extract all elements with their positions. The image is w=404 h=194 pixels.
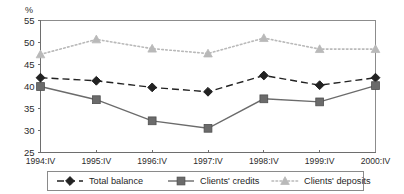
data-point-marker [372,82,380,90]
y-axis-tick-label: 55 [24,15,35,26]
x-axis-tick-label: 1995:IV [82,156,112,166]
data-point-marker [316,98,324,106]
chart-legend: Total balanceClients' creditsClients' de… [48,172,372,191]
y-axis-tick-label: 45 [24,59,35,70]
data-point-marker [37,83,45,91]
legend-label: Clients' credits [200,176,260,186]
data-series [36,71,380,96]
data-point-marker [260,34,269,42]
x-axis-tick-label: 1997:IV [193,156,223,166]
data-point-marker [260,95,268,103]
data-point-marker [315,81,324,90]
x-axis-ticks: 1994:IV1995:IV1996:IV1997:IV1998:IV1999:… [26,150,391,166]
legend-marker-icon [177,177,185,185]
data-point-marker [92,35,101,43]
legend-label: Total balance [89,176,143,186]
legend-item[interactable]: Clients' credits [168,176,260,186]
y-axis-tick-label: 35 [24,103,35,114]
chart-container: 25303540455055 1994:IV1995:IV1996:IV1997… [0,0,404,194]
data-point-marker [204,124,212,132]
legend-item[interactable]: Total balance [57,176,143,186]
data-series-group [36,34,380,132]
y-axis-tick-label: 30 [24,125,35,136]
x-axis-tick-label: 1998:IV [249,156,279,166]
data-point-marker [148,83,157,92]
data-point-marker [148,117,156,125]
y-axis-unit-label: % [25,5,33,15]
x-axis-tick-label: 1999:IV [305,156,335,166]
data-point-marker [36,50,45,58]
data-point-marker [36,73,45,82]
x-axis-tick-label: 2000:IV [361,156,391,166]
data-point-marker [371,73,380,82]
y-axis-tick-label: 40 [24,81,35,92]
data-point-marker [259,71,268,80]
data-point-marker [92,76,101,85]
legend-label: Clients' deposits [304,176,371,186]
x-axis-tick-label: 1994:IV [26,156,56,166]
line-chart: 25303540455055 1994:IV1995:IV1996:IV1997… [0,0,404,194]
data-point-marker [204,87,213,96]
x-axis-tick-label: 1996:IV [137,156,167,166]
data-series [36,34,380,58]
data-point-marker [92,96,100,104]
y-axis-tick-label: 50 [24,37,35,48]
